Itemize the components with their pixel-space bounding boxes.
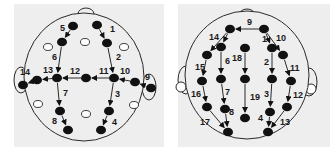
right-electrode-tl [225, 25, 235, 34]
left-head-diagram: 1234567891011121314 [14, 4, 164, 147]
right-channel-label-9: 9 [247, 17, 252, 27]
left-channel-label-6: 6 [52, 52, 57, 62]
left-electrode-k [146, 84, 156, 93]
left-electrode-i [32, 76, 42, 85]
right-electrode-b3 [240, 114, 250, 123]
left-channel-label-8: 8 [52, 116, 57, 126]
right-channel-label-1: 1 [262, 34, 267, 44]
right-electrode-a4 [267, 75, 277, 84]
right-electrode-c1 [223, 128, 233, 137]
left-electrode-c [92, 21, 102, 30]
left-channel-label-10: 10 [120, 66, 130, 76]
left-electrode-b [57, 38, 67, 47]
left-channel-label-12: 12 [70, 66, 80, 76]
left-channel-label-2: 2 [116, 52, 121, 62]
right-electrode-r1 [267, 44, 277, 53]
right-electrode-a2 [216, 75, 226, 84]
left-electrode-h [18, 81, 28, 90]
right-electrode-a3 [240, 75, 250, 84]
left-unused-electrode-3 [34, 101, 43, 108]
right-channel-label-3: 3 [264, 89, 269, 99]
right-channel-label-7: 7 [225, 87, 230, 97]
right-electrode-r2 [278, 51, 288, 60]
right-channel-label-11: 11 [290, 63, 300, 73]
left-channel-label-5: 5 [60, 23, 65, 33]
left-unused-electrode-1 [81, 39, 90, 46]
left-electrode-m [63, 126, 73, 135]
left-channel-label-1: 1 [110, 24, 115, 34]
right-channel-label-4: 4 [258, 113, 263, 123]
right-channel-label-15: 15 [195, 62, 205, 72]
right-electrode-a1 [197, 77, 207, 86]
right-channel-label-19: 19 [250, 92, 260, 102]
right-channel-label-12: 12 [293, 90, 303, 100]
right-channel-label-14: 14 [209, 32, 219, 42]
right-channel-label-13: 13 [280, 117, 290, 127]
right-electrode-b5 [282, 103, 292, 112]
right-electrode-m1 [240, 44, 250, 53]
right-channel-label-6: 6 [225, 56, 230, 66]
left-unused-electrode-2 [120, 44, 129, 51]
right-electrode-a5 [286, 77, 296, 86]
right-electrode-c2 [263, 128, 273, 137]
right-channel-label-16: 16 [191, 89, 201, 99]
right-electrode-l2 [216, 43, 226, 52]
left-channel-label-7: 7 [63, 88, 68, 98]
right-electrode-b2 [220, 105, 230, 114]
left-electrode-l [55, 107, 65, 116]
right-ear-lobe-0 [176, 82, 186, 92]
right-electrode-l1 [202, 51, 212, 60]
left-unused-electrode-4 [82, 111, 91, 118]
right-channel-label-2: 2 [264, 57, 269, 67]
montage-diagram: 1234567891011121314 12346789101112131415… [0, 0, 331, 155]
left-electrode-n [104, 107, 114, 116]
left-channel-label-11: 11 [99, 66, 109, 76]
left-electrode-f [81, 74, 91, 83]
right-electrode-tr [259, 25, 269, 34]
left-channel-label-4: 4 [112, 117, 117, 127]
eeg-electrode-montage-figure: 1234567891011121314 12346789101112131415… [0, 0, 331, 155]
left-unused-electrode-0 [44, 44, 53, 51]
left-channel-label-3: 3 [115, 89, 120, 99]
left-electrode-e [52, 74, 62, 83]
left-electrode-a [68, 22, 78, 31]
left-electrode-g [109, 74, 119, 83]
right-electrode-b1 [202, 103, 212, 112]
right-channel-label-18: 18 [232, 53, 242, 63]
right-electrode-b4 [265, 108, 275, 117]
left-channel-label-14: 14 [20, 67, 30, 77]
left-electrode-d [102, 39, 112, 48]
left-unused-electrode-5 [130, 102, 139, 109]
left-electrode-j [130, 78, 140, 87]
right-channel-label-17: 17 [200, 117, 210, 127]
right-channel-label-10: 10 [276, 33, 286, 43]
left-channel-label-13: 13 [43, 65, 53, 75]
right-head-diagram: 1234678910111213141516171819 [176, 4, 330, 147]
left-electrode-o [96, 126, 106, 135]
left-channel-label-9: 9 [145, 72, 150, 82]
